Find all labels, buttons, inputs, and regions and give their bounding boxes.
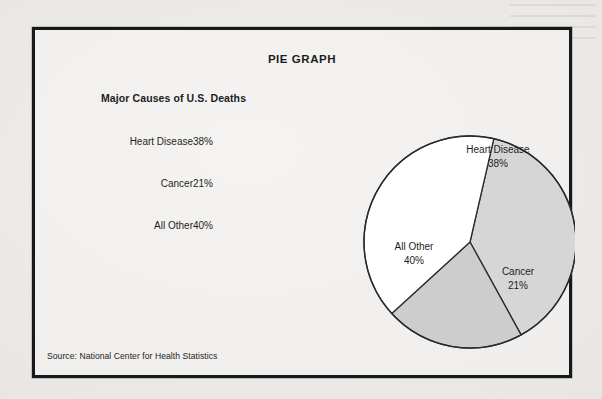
legend-heading: Major Causes of U.S. Deaths — [101, 92, 306, 104]
row-value-cancer: 21% — [193, 162, 271, 204]
pie-value-all-other: 40% — [404, 255, 424, 266]
legend-panel: Major Causes of U.S. Deaths Heart Diseas… — [71, 92, 306, 246]
pie-label-all-other: All Other — [395, 241, 435, 252]
data-table: Heart Disease 38% Cancer 21% All Other 4… — [71, 120, 271, 246]
pie-chart: Heart Disease 38% Cancer 21% All Other 4… — [327, 98, 575, 354]
table-row: Cancer 21% — [71, 162, 271, 204]
pie-chart-svg: Heart Disease 38% Cancer 21% All Other 4… — [327, 98, 575, 354]
row-label-cancer: Cancer — [71, 162, 193, 204]
row-value-all-other: 40% — [193, 204, 271, 246]
row-value-heart-disease: 38% — [193, 120, 271, 162]
pie-label-cancer: Cancer — [502, 266, 535, 277]
table-row: All Other 40% — [71, 204, 271, 246]
pie-value-cancer: 21% — [508, 280, 528, 291]
chart-frame: PIE GRAPH Major Causes of U.S. Deaths He… — [32, 27, 572, 378]
row-label-all-other: All Other — [71, 204, 193, 246]
pie-label-heart-disease: Heart Disease — [466, 144, 530, 155]
pie-value-heart-disease: 38% — [488, 158, 508, 169]
row-label-heart-disease: Heart Disease — [71, 120, 193, 162]
table-row: Heart Disease 38% — [71, 120, 271, 162]
source-note: Source: National Center for Health Stati… — [47, 351, 217, 361]
page-title: PIE GRAPH — [35, 53, 569, 65]
